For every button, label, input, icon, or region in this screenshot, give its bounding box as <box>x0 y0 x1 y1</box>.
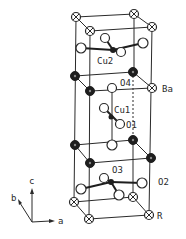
axis-label-b: b <box>11 193 16 203</box>
label-cu1: Cu1 <box>114 105 130 115</box>
label-o1: O1 <box>126 120 137 130</box>
axis-label-c: c <box>29 176 34 186</box>
label-cu2: Cu2 <box>97 56 113 66</box>
label-o3: O3 <box>112 165 123 175</box>
label-o4: O4 <box>120 78 131 88</box>
label-o2: O2 <box>158 177 169 187</box>
axis-label-a: a <box>58 216 63 226</box>
label-ba: Ba <box>162 84 173 94</box>
label-r: R <box>157 211 163 221</box>
crystal-structure-diagram: Cu2 O4 Ba Cu1 O1 O3 O2 R c b a <box>0 0 186 239</box>
axes-indicator <box>18 188 55 223</box>
